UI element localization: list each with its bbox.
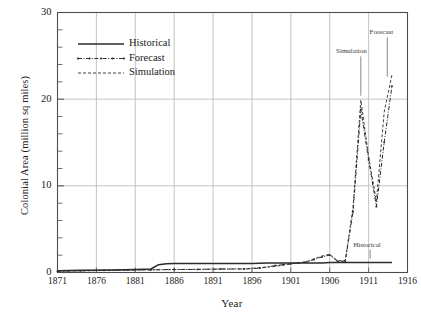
x-tick-label-1911: 1911 <box>349 277 389 287</box>
x-tick-label-1916: 1916 <box>388 277 421 287</box>
legend-label-simulation: Simulation <box>129 67 175 78</box>
series-marker-forecast <box>329 254 331 256</box>
series-marker-forecast <box>383 142 385 144</box>
x-tick-label-1896: 1896 <box>232 277 272 287</box>
y-tick-label-30: 30 <box>26 7 52 18</box>
series-marker-forecast <box>306 261 308 263</box>
legend-marker-forecast <box>77 58 79 60</box>
x-tick-label-1891: 1891 <box>193 277 233 287</box>
y-tick-label-10: 10 <box>26 180 52 191</box>
series-marker-forecast <box>376 206 378 208</box>
series-line-simulation <box>58 75 392 271</box>
data-series <box>57 44 393 272</box>
annotation-label-forecast: Forecast <box>370 29 394 36</box>
series-line-forecast <box>58 86 392 271</box>
y-axis-label: Colonial Area (million sq miles) <box>19 36 30 256</box>
legend-label-historical: Historical <box>129 38 170 49</box>
x-tick-label-1886: 1886 <box>154 277 194 287</box>
x-tick-label-1881: 1881 <box>115 277 155 287</box>
series-marker-forecast <box>337 260 339 262</box>
legend-label-forecast: Forecast <box>129 53 165 64</box>
x-tick-label-1906: 1906 <box>310 277 350 287</box>
x-tick-label-1901: 1901 <box>271 277 311 287</box>
legend-marker-forecast <box>89 58 91 60</box>
x-axis-label: Year <box>57 297 407 309</box>
x-tick-label-1871: 1871 <box>38 277 78 287</box>
legend-marker-forecast <box>123 58 125 60</box>
x-tick-label-1876: 1876 <box>76 277 116 287</box>
chart-figure: Colonial Area (million sq miles) Year 01… <box>0 0 421 317</box>
legend-marker-forecast <box>100 58 102 60</box>
annotation-label-simulation: Simulation <box>336 48 367 55</box>
series-marker-forecast <box>290 263 292 265</box>
series-marker-forecast <box>391 85 393 87</box>
series-line-historical <box>58 263 392 271</box>
y-tick-label-20: 20 <box>26 94 52 105</box>
legend-marker-forecast <box>112 58 114 60</box>
annotation-label-historical: Historical <box>353 242 381 249</box>
